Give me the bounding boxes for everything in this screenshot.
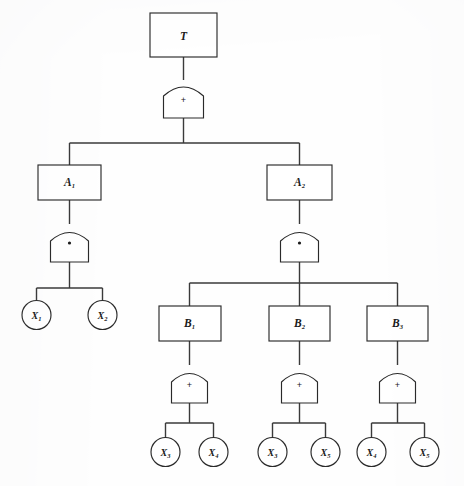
node-x2[interactable]: X2 [88, 301, 117, 330]
gate-b3[interactable]: + [380, 374, 416, 404]
node-x4c[interactable]: X4 [357, 438, 386, 467]
node-x3a[interactable]: X3 [151, 438, 180, 467]
node-b3[interactable]: B3 [367, 306, 428, 341]
node-x4a[interactable]: X4 [199, 438, 228, 467]
wire-layer [37, 57, 425, 438]
gate-a1[interactable] [51, 233, 89, 263]
fault-tree-canvas: T + A1 X1 X2 A2 [0, 0, 464, 486]
gate-a2[interactable] [281, 233, 319, 263]
gate-b3-operator: + [395, 380, 400, 390]
gate-a1-operator-dot [68, 241, 71, 244]
gate-a2-operator-dot [298, 241, 301, 244]
node-top-event[interactable]: T [150, 13, 217, 57]
node-x5c[interactable]: X5 [410, 438, 439, 467]
node-a1[interactable]: A1 [38, 165, 101, 200]
node-x5b[interactable]: X5 [311, 438, 340, 467]
gate-top[interactable]: + [164, 87, 204, 118]
gate-b2[interactable]: + [282, 374, 318, 404]
gate-b2-operator: + [297, 380, 302, 390]
node-a2[interactable]: A2 [267, 165, 332, 200]
node-b1[interactable]: B1 [159, 306, 221, 341]
node-x3b[interactable]: X3 [258, 438, 287, 467]
fault-tree-diagram: T + A1 X1 X2 A2 [0, 0, 464, 486]
gate-top-operator: + [181, 95, 186, 105]
gate-a1-shape[interactable] [51, 233, 89, 263]
node-b2[interactable]: B2 [269, 306, 330, 341]
gate-b1[interactable]: + [172, 374, 208, 404]
gate-a2-shape[interactable] [281, 233, 319, 263]
top-event-label: T [180, 30, 188, 42]
gate-b1-operator: + [187, 380, 192, 390]
node-x1[interactable]: X1 [22, 301, 51, 330]
